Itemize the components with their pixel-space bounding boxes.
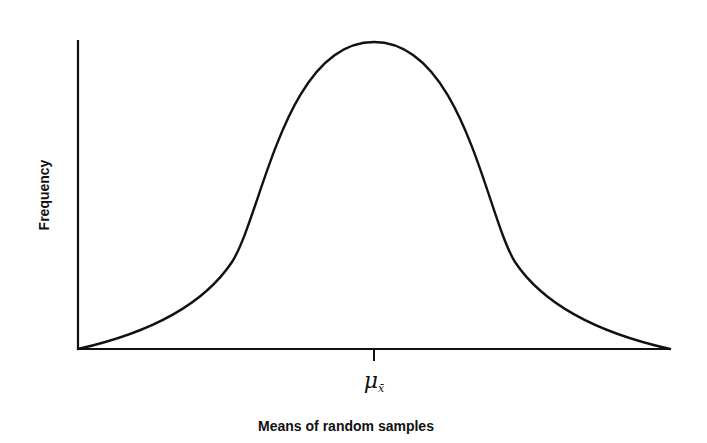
chart-canvas (0, 0, 707, 443)
x-tick-label-mean: μx̄ (364, 368, 385, 395)
y-axis-label: Frequency (36, 160, 52, 231)
normal-distribution-curve (78, 42, 670, 349)
x-bar-subscript: x̄ (378, 382, 384, 395)
x-axis-label: Means of random samples (258, 418, 434, 434)
mu-symbol: μ (364, 368, 378, 393)
